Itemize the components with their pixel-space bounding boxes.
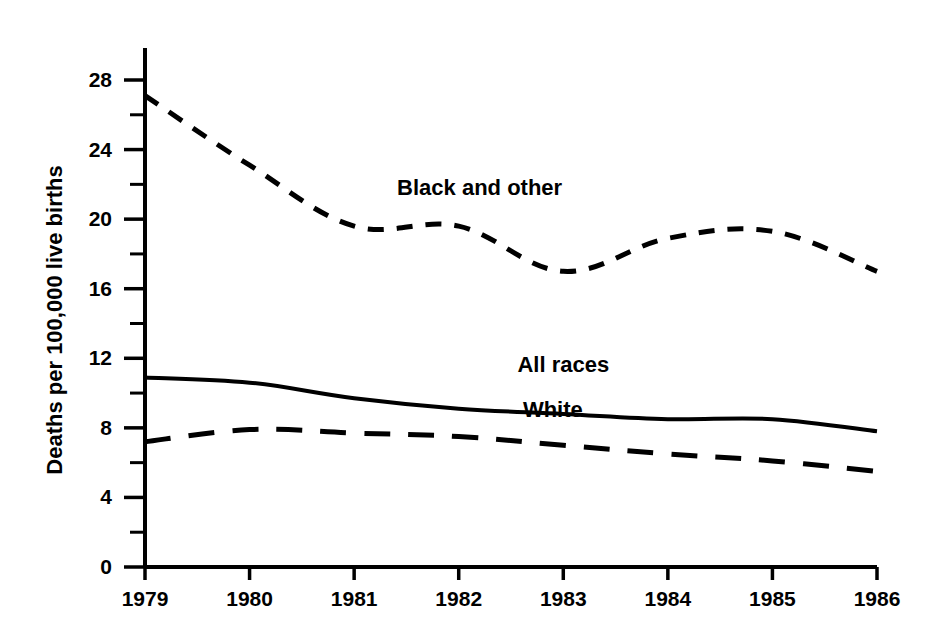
x-axis-tick-label: 1984 (644, 587, 691, 610)
series-label-all-races: All races (517, 352, 609, 377)
x-axis-tick-label: 1986 (854, 587, 901, 610)
y-axis-tick-label: 16 (89, 277, 112, 300)
x-axis-tick-label: 1985 (749, 587, 796, 610)
y-axis-title: Deaths per 100,000 live births (42, 165, 67, 474)
y-axis-tick-label: 12 (89, 346, 112, 369)
x-axis-tick-label: 1979 (122, 587, 169, 610)
y-axis-tick-label: 0 (100, 555, 112, 578)
y-axis-tick-label: 24 (89, 138, 113, 161)
y-axis-tick-labels: 0481216202428 (89, 68, 113, 578)
y-axis-minor-ticks (130, 115, 145, 532)
x-axis-tick-label: 1981 (331, 587, 378, 610)
x-axis-tick-labels: 19791980198119821983198419851986 (122, 587, 901, 610)
series-line-white (145, 429, 877, 471)
series-inline-labels: Black and otherAll racesWhite (397, 175, 609, 423)
line-chart: Deaths per 100,000 live births 048121620… (0, 0, 940, 626)
x-axis-tick-label: 1980 (226, 587, 273, 610)
x-axis-tick-label: 1982 (435, 587, 482, 610)
chart-container: Deaths per 100,000 live births 048121620… (0, 0, 940, 626)
y-axis-tick-label: 8 (100, 416, 112, 439)
y-axis-tick-label: 28 (89, 68, 113, 91)
y-axis-tick-label: 4 (100, 485, 112, 508)
y-axis-tick-label: 20 (89, 207, 112, 230)
y-axis-title-group: Deaths per 100,000 live births (42, 165, 67, 474)
series-line-all-races (145, 377, 877, 431)
series-label-white: White (523, 397, 583, 422)
series-lines (145, 96, 877, 472)
x-axis-tick-label: 1983 (540, 587, 587, 610)
series-label-black-and-other: Black and other (397, 175, 562, 200)
